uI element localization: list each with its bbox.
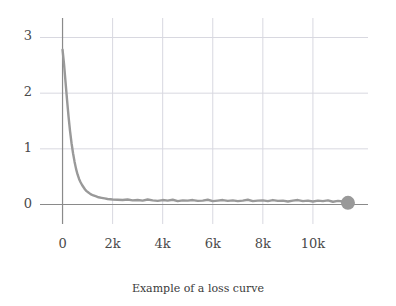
x-tick-label: 4k — [143, 236, 183, 251]
y-tick-label: 2 — [0, 84, 32, 99]
chart-caption: Example of a loss curve — [0, 282, 396, 295]
y-tick-label: 3 — [0, 28, 32, 43]
x-tick-label: 2k — [93, 236, 133, 251]
plot-area — [40, 18, 368, 224]
y-tick-label: 1 — [0, 140, 32, 155]
x-tick-label: 10k — [293, 236, 333, 251]
y-tick-label: 0 — [0, 196, 32, 211]
x-tick-label: 6k — [193, 236, 233, 251]
chart-data-layer — [40, 18, 368, 224]
x-tick-label: 0 — [43, 236, 83, 251]
x-tick-label: 8k — [243, 236, 283, 251]
loss-curve-chart: 0123 02k4k6k8k10k Example of a loss curv… — [0, 0, 396, 306]
